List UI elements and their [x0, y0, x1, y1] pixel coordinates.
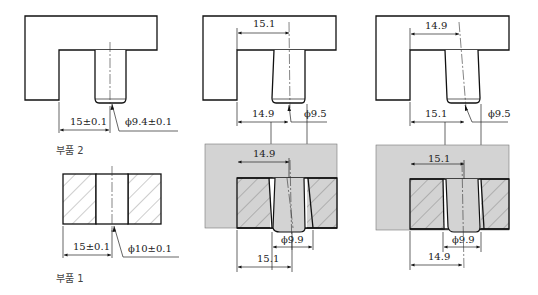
column-nominal: 15±0.1 ϕ9.4±0.1 부품 2 15±0.1 ϕ10±0.1 부품 1: [25, 16, 179, 284]
part1-bottom-dimension: 15.1: [257, 253, 279, 264]
part1-label: 부품 1: [56, 273, 84, 284]
part1-bottom-dimension: 14.9: [428, 251, 450, 262]
part1-diameter-dimension: ϕ9.9: [281, 234, 304, 245]
part1-position-dimension: 15±0.1: [73, 241, 110, 252]
part2-top-dimension: 15.1: [253, 18, 275, 29]
part1-diameter-dimension: ϕ10±0.1: [128, 243, 172, 254]
part2-diameter-dimension: ϕ9.5: [304, 108, 327, 119]
part2-diameter-dimension: ϕ9.4±0.1: [125, 116, 172, 127]
tolerance-stackup-diagram: 15±0.1 ϕ9.4±0.1 부품 2 15±0.1 ϕ10±0.1 부품 1: [0, 0, 538, 295]
part1-top-dimension: 14.9: [253, 148, 275, 159]
part2-bottom-dimension: 15.1: [425, 108, 447, 119]
column-case-b: 14.9 15.1 ϕ9.5 15.1 ϕ: [376, 16, 511, 270]
column-case-a: 15.1 14.9 ϕ9.5: [203, 16, 337, 272]
part2-bottom-dimension: 14.9: [252, 108, 274, 119]
part2-position-dimension: 15±0.1: [70, 116, 107, 127]
part2-drawing-case-a: [203, 16, 336, 150]
part2-top-dimension: 14.9: [425, 20, 447, 31]
part2-drawing-case-b: [376, 16, 509, 150]
part2-diameter-dimension: ϕ9.5: [488, 108, 511, 119]
part1-diameter-dimension: ϕ9.9: [452, 234, 475, 245]
part2-label: 부품 2: [56, 145, 84, 156]
part1-top-dimension: 15.1: [428, 153, 450, 164]
